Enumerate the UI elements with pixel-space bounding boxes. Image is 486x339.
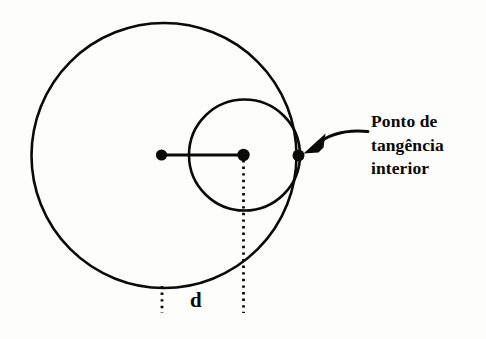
tangency-point-dot <box>293 150 305 162</box>
tangency-callout-label: Ponto de tangência interior <box>371 110 444 181</box>
small-circle-center-dot <box>237 149 249 161</box>
callout-line-3: interior <box>371 157 444 181</box>
geometry-figure: Ponto de tangência interior d <box>0 0 486 339</box>
callout-arrow-head <box>304 134 326 154</box>
large-circle-center-dot <box>156 149 167 160</box>
callout-line-2: tangência <box>371 134 444 158</box>
callout-line-1: Ponto de <box>371 110 444 134</box>
distance-label: d <box>190 290 202 311</box>
